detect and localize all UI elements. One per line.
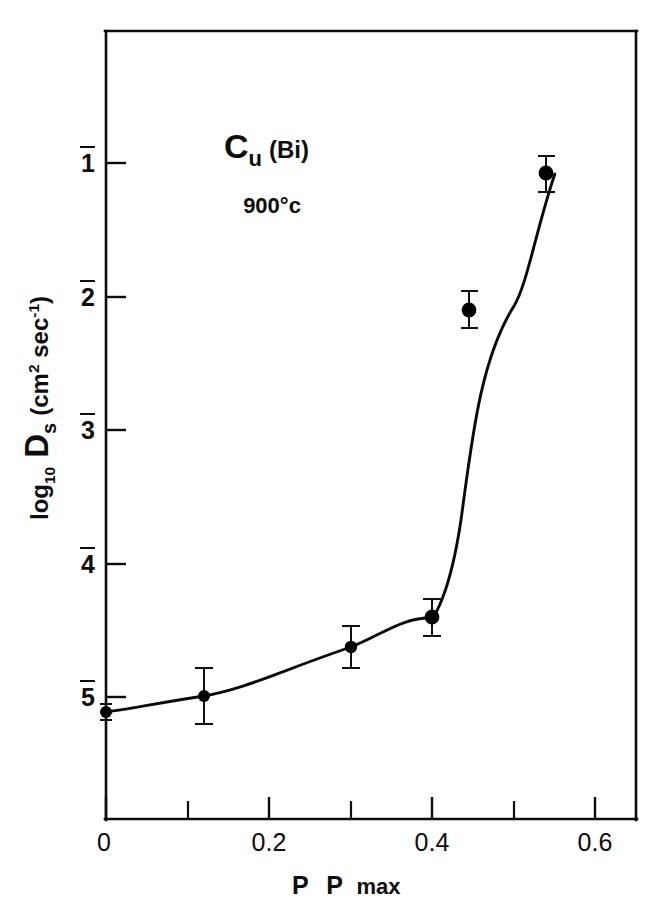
svg-text:log10Ds(cm2 sec-1): log10Ds(cm2 sec-1) [18, 296, 60, 520]
svg-text:P P max: P P max [292, 871, 401, 899]
y-axis-tick-labels: 1 2 3 4 5 [80, 147, 95, 711]
x-axis-title-p1: P [292, 871, 308, 899]
y-axis-title-units-mid: sec [26, 318, 53, 365]
y-axis-title-log: log [26, 484, 53, 520]
data-series-group [100, 156, 555, 724]
x-axis-title-p2: P [326, 871, 342, 899]
material-dopant: (Bi) [269, 136, 309, 163]
fit-curve [106, 174, 555, 712]
data-point [462, 303, 477, 318]
y-tick-label-neg2: 2 [80, 281, 95, 311]
material-label: Cu(Bi) [224, 127, 309, 171]
scatter-plot-svg: 1 2 3 4 5 [0, 0, 664, 908]
data-point [539, 166, 554, 181]
y-axis-title: log10Ds(cm2 sec-1) [18, 296, 60, 520]
y-axis-title-units-sup2: -1 [25, 304, 42, 318]
data-point [198, 690, 210, 702]
plot-frame [105, 31, 637, 820]
temperature-label: 900°c [243, 193, 301, 218]
x-tick-label-0: 0 [97, 828, 111, 856]
plot-annotations: Cu(Bi) 900°c [224, 127, 309, 218]
x-axis-ticks [106, 797, 595, 819]
y-tick-label-text: 1 [81, 149, 95, 177]
y-axis-title-units-close: ) [26, 296, 53, 304]
x-tick-label-0p2: 0.2 [252, 828, 287, 856]
material-element-sub: u [249, 146, 262, 171]
y-axis-title-units-sup1: 2 [25, 364, 42, 373]
x-tick-label-0p6: 0.6 [578, 828, 613, 856]
x-tick-label-0p4: 0.4 [415, 828, 450, 856]
y-tick-label-neg3: 3 [80, 414, 95, 444]
y-axis-title-d-sub: s [38, 423, 60, 434]
y-tick-label-neg4: 4 [80, 548, 95, 578]
material-element: C [224, 127, 249, 165]
y-axis-title-units-open: (cm [26, 373, 53, 416]
y-tick-label-neg1: 1 [80, 147, 95, 177]
x-axis-tick-labels: 0 0.2 0.4 0.6 [97, 828, 612, 856]
y-axis-title-d: D [18, 434, 55, 458]
y-tick-label-text: 5 [81, 683, 95, 711]
y-axis-title-log-sub: 10 [41, 467, 58, 484]
x-axis-title: P P max [292, 871, 401, 899]
data-point [425, 610, 440, 625]
y-tick-label-text: 4 [81, 550, 95, 578]
x-axis-title-p3: max [356, 874, 401, 899]
figure-container: 1 2 3 4 5 [0, 0, 664, 908]
y-axis-ticks [106, 163, 126, 697]
y-tick-label-text: 2 [81, 283, 95, 311]
data-point [345, 641, 357, 653]
data-point [100, 706, 112, 718]
y-tick-label-neg5: 5 [80, 681, 95, 711]
y-tick-label-text: 3 [81, 416, 95, 444]
